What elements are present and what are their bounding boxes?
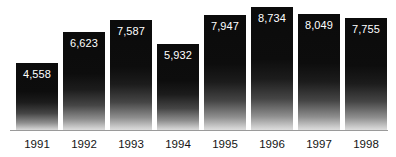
bar-group-1996[interactable]: 8,734: [251, 7, 293, 131]
axis-label-1995: 1995: [204, 137, 246, 151]
bar-1993[interactable]: 7,587: [110, 20, 152, 131]
bar-group-1998[interactable]: 7,755: [345, 18, 387, 131]
axis-label-1991: 1991: [16, 137, 58, 151]
bar-1997[interactable]: 8,049: [298, 14, 340, 131]
bar-chart: 4,558 6,623 7,587 5,932 7,947 8,734: [0, 0, 396, 157]
bar-value-label: 8,049: [298, 19, 340, 31]
plot-area: 4,558 6,623 7,587 5,932 7,947 8,734: [0, 0, 396, 131]
axis-label-1994: 1994: [157, 137, 199, 151]
bar-1996[interactable]: 8,734: [251, 7, 293, 131]
bar-value-label: 6,623: [63, 37, 105, 49]
axis-label-1992: 1992: [63, 137, 105, 151]
bar-group-1991[interactable]: 4,558: [16, 63, 58, 131]
axis-label-1997: 1997: [298, 137, 340, 151]
bar-1998[interactable]: 7,755: [345, 18, 387, 131]
bar-1994[interactable]: 5,932: [157, 44, 199, 131]
bar-group-1992[interactable]: 6,623: [63, 32, 105, 131]
x-axis-line: [10, 130, 388, 131]
axis-label-1996: 1996: [251, 137, 293, 151]
bar-group-1994[interactable]: 5,932: [157, 44, 199, 131]
bar-group-1993[interactable]: 7,587: [110, 20, 152, 131]
bar-1992[interactable]: 6,623: [63, 32, 105, 131]
bar-group-1995[interactable]: 7,947: [204, 15, 246, 131]
bar-value-label: 7,755: [345, 23, 387, 35]
axis-label-1993: 1993: [110, 137, 152, 151]
bar-group-1997[interactable]: 8,049: [298, 14, 340, 131]
bar-value-label: 8,734: [251, 12, 293, 24]
bar-value-label: 7,947: [204, 20, 246, 32]
bar-value-label: 5,932: [157, 49, 199, 61]
bar-value-label: 4,558: [16, 68, 58, 80]
x-axis-labels: 1991 1992 1993 1994 1995 1996 1997 1998: [0, 133, 396, 157]
bar-1991[interactable]: 4,558: [16, 63, 58, 131]
axis-label-1998: 1998: [345, 137, 387, 151]
bar-1995[interactable]: 7,947: [204, 15, 246, 131]
bar-value-label: 7,587: [110, 25, 152, 37]
